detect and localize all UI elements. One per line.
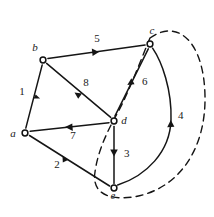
edge-4: 4 [118, 48, 184, 185]
edge-4-arrowhead [167, 120, 174, 127]
node-d-label: d [121, 114, 127, 126]
edge-4-label: 4 [178, 109, 184, 121]
graph-figure: 1 2 3 4 5 6 [0, 0, 214, 217]
graph-canvas: 1 2 3 4 5 6 [0, 0, 214, 217]
node-a-dot[interactable] [22, 130, 28, 136]
dashed-cut-curve [95, 31, 205, 198]
node-c-dot[interactable] [147, 41, 153, 47]
edge-3: 3 [110, 127, 130, 184]
edge-5: 5 [48, 32, 145, 59]
node-c[interactable]: c [147, 24, 154, 47]
edge-8-arrowhead [75, 93, 83, 99]
edge-8: 8 [47, 63, 111, 117]
edge-8-line [47, 63, 111, 117]
edge-7-label: 7 [70, 129, 76, 141]
node-e-label: e [111, 189, 116, 201]
edge-2-label: 2 [54, 158, 60, 170]
node-b[interactable]: b [32, 41, 46, 63]
edge-7: 7 [30, 123, 109, 141]
edge-5-label: 5 [94, 32, 100, 44]
node-d[interactable]: d [111, 114, 127, 126]
edge-3-label: 3 [124, 147, 130, 159]
edge-6: 6 [115, 49, 148, 116]
edge-8-label: 8 [83, 76, 89, 88]
edge-1-line [26, 65, 42, 128]
node-b-dot[interactable] [40, 57, 46, 63]
node-a[interactable]: a [10, 127, 28, 139]
node-c-label: c [150, 24, 155, 36]
edge-1: 1 [19, 65, 42, 128]
edge-5-arrowhead [92, 49, 99, 56]
edge-1-label: 1 [19, 85, 25, 97]
node-a-label: a [10, 127, 16, 139]
edge-6-label: 6 [142, 75, 148, 87]
node-e[interactable]: e [111, 185, 117, 201]
node-b-label: b [32, 41, 38, 53]
node-d-dot[interactable] [111, 118, 117, 124]
edge-3-arrowhead [110, 150, 118, 157]
